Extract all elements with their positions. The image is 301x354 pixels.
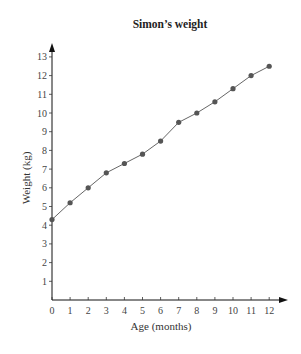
x-tick-label: 6 <box>158 305 163 316</box>
x-tick-label: 1 <box>68 305 73 316</box>
x-tick-label: 10 <box>228 305 238 316</box>
y-tick-label: 3 <box>42 238 47 249</box>
x-tick-label: 11 <box>246 305 256 316</box>
chart-title: Simon’s weight <box>133 18 208 31</box>
y-tick-label: 9 <box>42 126 47 137</box>
y-tick-label: 12 <box>37 70 47 81</box>
y-tick-label: 5 <box>42 201 47 212</box>
data-point <box>68 200 73 205</box>
data-point <box>230 86 235 91</box>
data-point <box>86 185 91 190</box>
data-point <box>49 217 54 222</box>
x-tick-label: 9 <box>212 305 217 316</box>
x-tick-label: 2 <box>86 305 91 316</box>
x-tick-label: 3 <box>104 305 109 316</box>
y-tick-label: 2 <box>42 257 47 268</box>
data-point <box>140 152 145 157</box>
y-tick-label: 4 <box>42 220 47 231</box>
y-axis-arrow-icon <box>49 43 55 52</box>
data-point <box>249 73 254 78</box>
x-tick-label: 4 <box>122 305 127 316</box>
x-axis: 0123456789101112 <box>50 297 289 316</box>
y-axis-label: Weight (kg) <box>20 151 33 204</box>
x-tick-label: 7 <box>176 305 181 316</box>
data-point <box>212 99 217 104</box>
data-point <box>176 120 181 125</box>
data-point <box>158 138 163 143</box>
y-tick-label: 11 <box>37 89 47 100</box>
data-series <box>49 64 271 223</box>
y-tick-label: 7 <box>42 164 47 175</box>
x-tick-label: 0 <box>50 305 55 316</box>
y-ticks: 12345678910111213 <box>37 51 52 286</box>
data-point <box>122 161 127 166</box>
data-point <box>194 110 199 115</box>
data-point <box>104 170 109 175</box>
x-tick-label: 5 <box>140 305 145 316</box>
x-tick-label: 8 <box>194 305 199 316</box>
y-tick-label: 1 <box>42 276 47 287</box>
y-axis: 12345678910111213 <box>37 43 55 300</box>
line-chart: Simon’s weight 12345678910111213 0123456… <box>0 0 301 354</box>
y-tick-label: 10 <box>37 108 47 119</box>
y-tick-label: 6 <box>42 182 47 193</box>
y-tick-label: 13 <box>37 51 47 62</box>
x-tick-label: 12 <box>264 305 274 316</box>
x-axis-label: Age (months) <box>131 320 192 333</box>
data-point <box>267 64 272 69</box>
x-axis-arrow-icon <box>279 297 288 303</box>
y-tick-label: 8 <box>42 145 47 156</box>
